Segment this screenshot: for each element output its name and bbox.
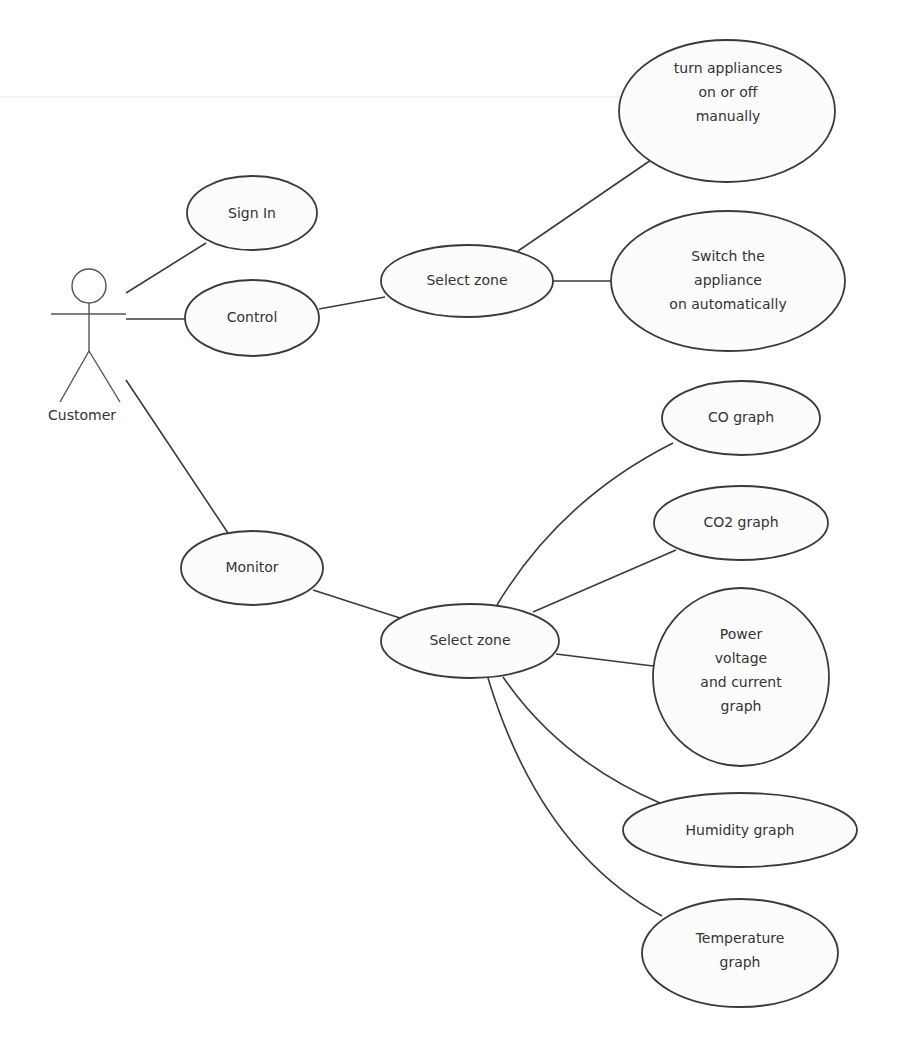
usecase-turn-manual-label: turn appliances on or off manually	[674, 56, 782, 128]
usecase-temperature-graph-label: Temperature graph	[696, 926, 785, 974]
usecase-switch-auto-line-1: Switch the	[669, 244, 786, 268]
usecase-power-graph-line-3: and current	[700, 670, 781, 694]
usecase-switch-auto-line-2: appliance	[669, 268, 786, 292]
edge-selectzone-manual	[518, 160, 651, 251]
usecase-temperature-graph-line-1: Temperature	[696, 926, 785, 950]
edge-selectzone-co2	[533, 550, 676, 612]
edge-monitor-selectzone	[313, 590, 400, 618]
usecase-power-graph-label: Power voltage and current graph	[700, 622, 781, 718]
edge-customer-monitor	[126, 380, 228, 533]
usecase-monitor-select-zone-label: Select zone	[429, 628, 510, 652]
usecase-power-graph-line-1: Power	[700, 622, 781, 646]
usecase-co2-graph-label: CO2 graph	[703, 510, 778, 534]
edge-selectzone-humidity	[503, 677, 660, 803]
usecase-power-graph-line-4: graph	[700, 694, 781, 718]
actor-customer-label: Customer	[48, 403, 116, 427]
usecase-control-label: Control	[227, 305, 278, 329]
edge-control-selectzone	[319, 297, 385, 309]
usecase-co-graph-label: CO graph	[708, 405, 774, 429]
edge-selectzone-power	[556, 654, 653, 666]
usecase-turn-manual-line-3: manually	[674, 104, 782, 128]
edge-customer-signin	[126, 243, 206, 293]
usecase-turn-manual-line-2: on or off	[674, 80, 782, 104]
usecase-control-select-zone-label: Select zone	[426, 268, 507, 292]
usecase-temperature-graph-line-2: graph	[696, 950, 785, 974]
usecase-switch-auto-label: Switch the appliance on automatically	[669, 244, 786, 316]
edge-selectzone-co	[497, 443, 673, 605]
use-case-diagram: Customer Sign In Control Monitor Select …	[0, 0, 900, 1054]
usecase-humidity-graph-label: Humidity graph	[686, 818, 795, 842]
usecase-turn-manual-line-1: turn appliances	[674, 56, 782, 80]
usecase-monitor-label: Monitor	[225, 555, 278, 579]
edge-selectzone-temperature	[488, 678, 662, 916]
usecase-sign-in-label: Sign In	[228, 201, 276, 225]
actor-customer-icon[interactable]	[51, 269, 126, 402]
usecase-power-graph-line-2: voltage	[700, 646, 781, 670]
usecase-switch-auto-line-3: on automatically	[669, 292, 786, 316]
